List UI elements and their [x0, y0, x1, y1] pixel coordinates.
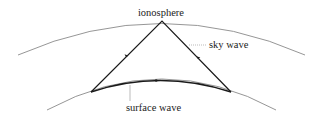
- radio-propagation-diagram: ionosphere sky wave surface wave: [0, 0, 321, 116]
- ionosphere-layer: [18, 24, 305, 56]
- surface-wave-path: [91, 81, 231, 93]
- sky-wave-label: sky wave: [209, 39, 249, 50]
- sky-wave-path: [91, 21, 231, 92]
- surface-wave-label: surface wave: [126, 102, 181, 113]
- ionosphere-label: ionosphere: [138, 7, 184, 18]
